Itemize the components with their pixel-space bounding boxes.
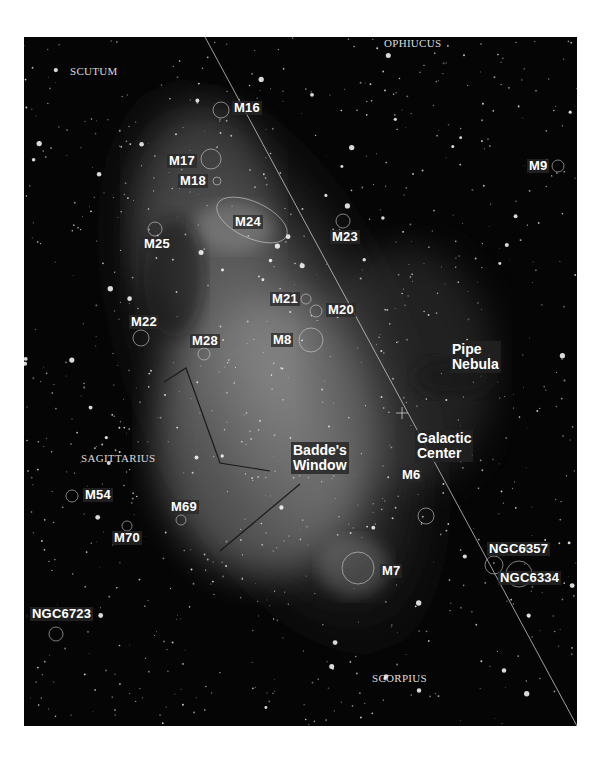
object-label-m70: M70	[112, 531, 142, 545]
constellation-label-scutum: SCUTUM	[70, 65, 118, 77]
object-label-m9: M9	[527, 159, 549, 173]
ngc6723-marker-circle	[49, 627, 63, 641]
star-chart-image: SCUTUMOPHIUCUSSAGITTARIUSSCORPIUSM16M17M…	[24, 37, 577, 726]
object-label-m6: M6	[400, 468, 422, 482]
constellation-label-sagittarius: SAGITTARIUS	[81, 452, 156, 464]
region-label-baddes-window: Badde's Window	[291, 442, 349, 474]
object-label-m18: M18	[178, 174, 208, 188]
object-label-m22: M22	[129, 315, 159, 329]
region-label-pipe-nebula: Pipe Nebula	[450, 341, 501, 373]
object-label-m20: M20	[326, 303, 356, 317]
object-label-ngc6723: NGC6723	[30, 607, 93, 621]
object-label-m54: M54	[83, 488, 113, 502]
object-label-m8: M8	[271, 333, 293, 347]
object-label-m7: M7	[380, 564, 402, 578]
m54-marker-circle	[66, 490, 78, 502]
object-label-ngc6357: NGC6357	[487, 542, 550, 556]
object-label-ngc6334: NGC6334	[498, 571, 561, 585]
object-label-m25: M25	[142, 237, 172, 251]
object-label-m69: M69	[169, 500, 199, 514]
m9-marker-circle	[552, 160, 564, 172]
object-label-m21: M21	[270, 292, 300, 306]
region-label-galactic-center: Galactic Center	[415, 430, 473, 462]
object-label-m23: M23	[330, 230, 360, 244]
object-label-m17: M17	[167, 154, 197, 168]
milky-way-band	[24, 37, 537, 726]
object-label-m28: M28	[190, 334, 220, 348]
constellation-label-scorpius: SCORPIUS	[372, 672, 427, 684]
constellation-label-ophiucus: OPHIUCUS	[384, 37, 441, 49]
object-label-m16: M16	[232, 101, 262, 115]
sky-canvas	[24, 37, 577, 726]
object-label-m24: M24	[233, 215, 263, 229]
